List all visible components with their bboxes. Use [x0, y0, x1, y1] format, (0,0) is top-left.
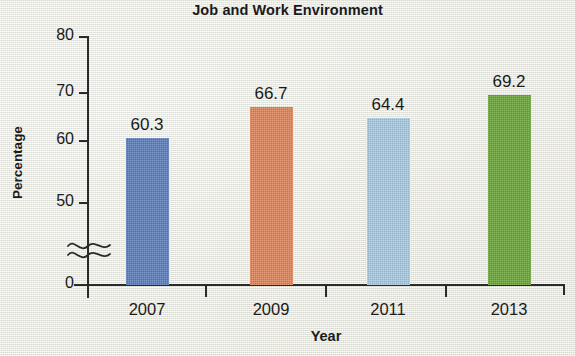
y-axis-title: Percentage — [10, 113, 25, 213]
bar-value-2009: 66.7 — [216, 84, 326, 104]
y-tick-label-80: 80 — [24, 26, 74, 44]
chart-title: Job and Work Environment — [0, 2, 575, 18]
x-tick-label-2009: 2009 — [211, 300, 331, 319]
y-tick-mark-70 — [79, 92, 88, 94]
y-axis-break-icon — [66, 234, 112, 264]
bar-texture — [126, 138, 169, 285]
bar-2011 — [367, 118, 410, 285]
x-tick-mark-2 — [325, 286, 327, 297]
bar-value-2007: 60.3 — [92, 115, 202, 135]
bar-texture — [488, 95, 531, 285]
x-tick-label-2007: 2007 — [87, 300, 207, 319]
y-tick-label-0: 0 — [24, 274, 74, 292]
bar-value-2011: 64.4 — [333, 95, 443, 115]
y-tick-mark-0 — [74, 284, 88, 286]
bar-2007 — [126, 138, 169, 285]
x-tick-label-2013: 2013 — [449, 300, 569, 319]
y-tick-mark-60 — [79, 140, 88, 142]
bar-value-2013: 69.2 — [454, 72, 564, 92]
y-tick-mark-80 — [79, 36, 88, 38]
x-tick-mark-3 — [445, 286, 447, 297]
x-axis-end-tick — [563, 284, 565, 295]
bar-texture — [367, 118, 410, 285]
x-tick-mark-1 — [205, 286, 207, 297]
y-tick-mark-50 — [79, 202, 88, 204]
y-tick-label-50: 50 — [24, 192, 74, 210]
bar-2009 — [250, 107, 293, 285]
bar-2013 — [488, 95, 531, 285]
y-tick-label-70: 70 — [24, 82, 74, 100]
y-tick-label-60: 60 — [24, 130, 74, 148]
x-axis-title: Year — [87, 328, 565, 344]
x-tick-label-2011: 2011 — [328, 300, 448, 319]
bar-texture — [250, 107, 293, 285]
bar-chart-figure: Job and Work Environment Percentage 80 7… — [0, 0, 575, 356]
